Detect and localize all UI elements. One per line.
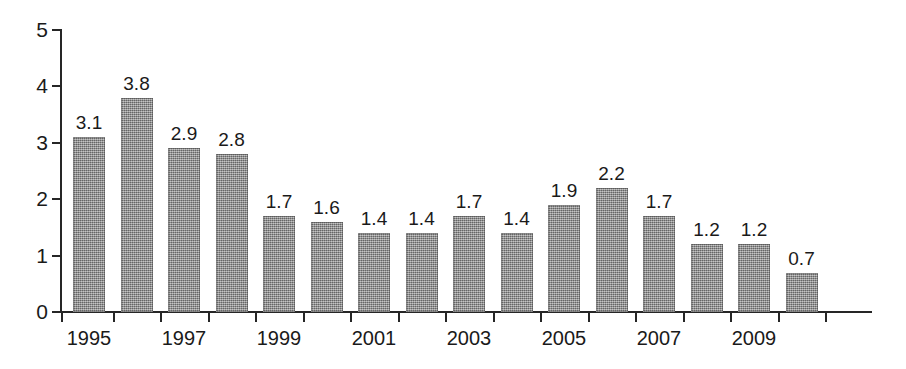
bar (406, 233, 438, 312)
x-axis-tick (730, 313, 732, 322)
bar-value-label: 1.4 (487, 209, 547, 228)
x-axis-tick (61, 313, 63, 322)
bar (786, 273, 818, 312)
bar (73, 137, 105, 312)
x-axis-tick-label: 1995 (49, 327, 129, 349)
bar (501, 233, 533, 312)
bar (691, 244, 723, 312)
y-axis-tick (52, 85, 61, 87)
bar-chart: 012345 19951997199920012003200520072009 … (0, 0, 906, 369)
y-axis-tick (52, 142, 61, 144)
x-axis-tick (683, 313, 685, 322)
x-axis-tick (635, 313, 637, 322)
bar-value-label: 2.8 (202, 130, 262, 149)
y-axis-tick (52, 255, 61, 257)
bar (121, 98, 153, 312)
x-axis-tick (255, 313, 257, 322)
x-axis-tick (445, 313, 447, 322)
y-axis-tick-label: 4 (28, 75, 48, 96)
x-axis-tick (350, 313, 352, 322)
bar (168, 148, 200, 312)
bar (216, 154, 248, 312)
y-axis-line (60, 29, 62, 313)
bar (263, 216, 295, 312)
x-axis-tick (588, 313, 590, 322)
x-axis-tick-label: 2005 (524, 327, 604, 349)
bar (738, 244, 770, 312)
x-axis-tick-label: 1997 (144, 327, 224, 349)
bar (548, 205, 580, 312)
bar-value-label: 1.2 (724, 220, 784, 239)
x-axis-tick-label: 2001 (334, 327, 414, 349)
x-axis-tick (493, 313, 495, 322)
x-axis-tick (160, 313, 162, 322)
bar-value-label: 3.8 (107, 74, 167, 93)
y-axis-tick-label: 0 (28, 301, 48, 322)
bar-value-label: 1.9 (534, 181, 594, 200)
y-axis-tick-label: 1 (28, 245, 48, 266)
y-axis-tick-label: 3 (28, 132, 48, 153)
x-axis-tick (113, 313, 115, 322)
x-axis-tick-label: 1999 (239, 327, 319, 349)
bar-value-label: 1.4 (392, 209, 452, 228)
x-axis-tick (540, 313, 542, 322)
x-axis-tick-label: 2007 (619, 327, 699, 349)
x-axis-tick (825, 313, 827, 322)
x-axis-tick (208, 313, 210, 322)
y-axis-tick (52, 198, 61, 200)
x-axis-tick-label: 2003 (429, 327, 509, 349)
bar (596, 188, 628, 312)
y-axis-tick (52, 311, 61, 313)
y-axis-tick-label: 5 (28, 19, 48, 40)
plot-area: 012345 19951997199920012003200520072009 … (0, 0, 906, 369)
bar (358, 233, 390, 312)
x-axis-tick-label: 2009 (714, 327, 794, 349)
x-axis-tick (303, 313, 305, 322)
bar (643, 216, 675, 312)
bar-value-label: 3.1 (59, 113, 119, 132)
y-axis-tick (52, 29, 61, 31)
bar-value-label: 0.7 (772, 249, 832, 268)
bar (453, 216, 485, 312)
x-axis-tick (778, 313, 780, 322)
bar (311, 222, 343, 312)
x-axis-tick (398, 313, 400, 322)
bar-value-label: 1.7 (629, 192, 689, 211)
bar-value-label: 2.2 (582, 164, 642, 183)
y-axis-tick-label: 2 (28, 188, 48, 209)
